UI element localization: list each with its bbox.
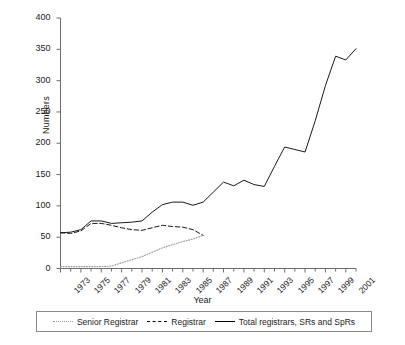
chart-figure: 050100150200250300350400 197319751977197… [0, 0, 405, 345]
legend-label: Senior Registrar [77, 317, 138, 327]
legend-label: Total registrars, SRs and SpRs [239, 317, 355, 327]
dashed-line-swatch-icon [147, 321, 167, 322]
y-tick-label: 350 [25, 43, 51, 53]
chart-series-layer [61, 49, 357, 267]
x-axis-ticks [61, 269, 357, 273]
solid-line-swatch-icon [215, 321, 235, 322]
chart-axes [61, 18, 357, 269]
dotted-line-swatch-icon [53, 321, 73, 322]
y-tick-label: 50 [25, 231, 51, 241]
x-axis-title: Year [0, 295, 405, 305]
legend-item-senior-registrar[interactable]: Senior Registrar [53, 317, 138, 327]
y-axis-title: Numbers [41, 75, 51, 155]
y-tick-label: 150 [25, 169, 51, 179]
legend-label: Registrar [171, 317, 205, 327]
chart-legend: Senior Registrar Registrar Total registr… [36, 311, 372, 332]
y-tick-label: 100 [25, 200, 51, 210]
series-line [61, 49, 357, 233]
legend-item-registrar[interactable]: Registrar [147, 317, 205, 327]
y-tick-label: 0 [25, 263, 51, 273]
series-line [61, 235, 204, 266]
y-axis-ticks [57, 18, 61, 269]
y-tick-label: 400 [25, 12, 51, 22]
legend-item-total[interactable]: Total registrars, SRs and SpRs [215, 317, 355, 327]
